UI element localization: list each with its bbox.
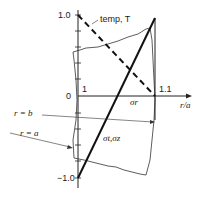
r-a-label: r = a — [20, 128, 39, 138]
y-tick-minus-1: −1.0 — [57, 173, 75, 183]
x-axis-label: r/a — [180, 100, 191, 110]
r-b-label: r = b — [14, 108, 33, 118]
radial-stress-label: σr — [130, 97, 138, 107]
x-tick-1: 1 — [82, 84, 87, 94]
y-tick-0: 0 — [66, 91, 71, 101]
temperature-label: temp, T — [100, 14, 131, 24]
hoop-axial-stress-label: σt,σz — [103, 133, 121, 143]
y-tick-1: 1.0 — [58, 10, 71, 20]
x-tick-1-1: 1.1 — [159, 84, 172, 94]
diagram-labels: 1.0 0 −1.0 1 1.1 r/a temp, T σr σt,σz r … — [0, 0, 205, 201]
